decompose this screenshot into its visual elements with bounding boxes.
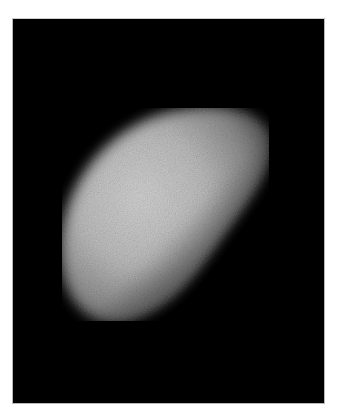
planet-photo xyxy=(13,19,324,403)
photo-frame xyxy=(12,18,325,404)
terminator-shadow xyxy=(62,108,268,320)
planet-disk xyxy=(62,108,268,320)
